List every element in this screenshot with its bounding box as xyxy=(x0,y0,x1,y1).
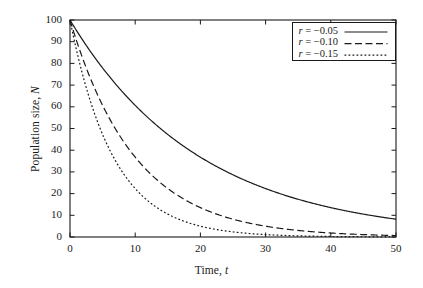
y-axis-title-text: Population size, xyxy=(29,94,41,172)
legend-entry-label-2: r = −0.10 xyxy=(299,36,339,47)
x-tick-label: 30 xyxy=(246,242,286,254)
x-axis-title-symbol: t xyxy=(225,264,228,276)
y-tick-label: 100 xyxy=(28,13,62,25)
legend-entry-label-1: r = −0.05 xyxy=(299,25,339,36)
y-axis-title: Population size, N xyxy=(29,29,41,229)
legend-entry-label-3: r = −0.15 xyxy=(299,48,339,59)
population-decay-chart: 0102030405060708090100 01020304050 r = −… xyxy=(0,0,423,288)
x-axis-title: Time, t xyxy=(0,264,423,276)
x-tick-label: 50 xyxy=(376,242,416,254)
x-tick-label: 0 xyxy=(50,242,90,254)
x-tick-label: 10 xyxy=(115,242,155,254)
legend-value-3: = −0.15 xyxy=(303,48,338,59)
x-axis-title-text: Time, xyxy=(195,264,225,276)
y-axis-title-symbol: N xyxy=(29,86,41,94)
legend-value-2: = −0.10 xyxy=(303,36,338,47)
legend-value-1: = −0.05 xyxy=(303,25,338,36)
y-tick-label: 0 xyxy=(28,230,62,242)
x-tick-label: 40 xyxy=(311,242,351,254)
x-tick-label: 20 xyxy=(180,242,220,254)
